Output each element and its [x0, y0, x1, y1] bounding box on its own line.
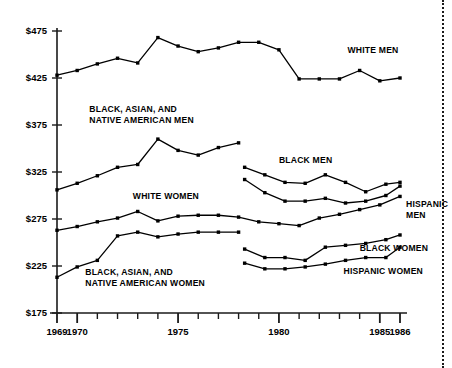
data-point [176, 232, 179, 235]
data-point [156, 219, 159, 222]
data-point [237, 230, 240, 233]
data-point [96, 62, 99, 65]
series-7: HISPANIC WOMEN [243, 246, 423, 277]
x-tick-label: 1969 [46, 326, 67, 337]
y-tick-label: $175 [26, 307, 48, 318]
series-line [245, 180, 400, 204]
series-label: HISPANICMEN [406, 199, 448, 220]
data-point [217, 146, 220, 149]
y-tick-label: $475 [26, 25, 48, 36]
data-point [116, 57, 119, 60]
data-point [344, 244, 347, 247]
series-1: BLACK, ASIAN, ANDNATIVE AMERICAN MEN [55, 104, 240, 192]
data-point [283, 256, 286, 259]
series-label: WHITE WOMEN [133, 191, 199, 201]
y-tick-label: $225 [26, 260, 48, 271]
x-tick-label: 1975 [167, 326, 189, 337]
y-tick-label: $325 [26, 166, 48, 177]
data-point [324, 197, 327, 200]
series-line [57, 139, 239, 190]
data-point [237, 41, 240, 44]
data-point [197, 230, 200, 233]
data-point [338, 213, 341, 216]
data-point [75, 225, 78, 228]
data-point [176, 44, 179, 47]
data-point [197, 214, 200, 217]
data-point [398, 233, 401, 236]
series-0: WHITE MEN [55, 36, 401, 83]
data-point [116, 234, 119, 237]
data-point [398, 184, 401, 187]
data-point [156, 137, 159, 140]
data-point [116, 166, 119, 169]
data-point [364, 256, 367, 259]
data-point [197, 153, 200, 156]
series-2: BLACK MEN [243, 155, 402, 194]
data-point [75, 182, 78, 185]
data-point [75, 69, 78, 72]
data-point [398, 181, 401, 184]
data-point [384, 183, 387, 186]
data-point [257, 220, 260, 223]
data-point [156, 36, 159, 39]
data-point [136, 210, 139, 213]
data-point [116, 216, 119, 219]
data-point [297, 77, 300, 80]
data-point [318, 216, 321, 219]
data-point [217, 46, 220, 49]
data-point [303, 182, 306, 185]
data-point [237, 215, 240, 218]
data-point [176, 149, 179, 152]
data-point [318, 77, 321, 80]
data-point [384, 238, 387, 241]
data-point [55, 73, 58, 76]
series-label: BLACK MEN [279, 155, 332, 165]
series-label: BLACK, ASIAN, ANDNATIVE AMERICAN MEN [89, 104, 194, 125]
y-tick-label: $425 [26, 72, 48, 83]
y-tick-label: $275 [26, 213, 48, 224]
data-point [277, 48, 280, 51]
series-line [245, 167, 400, 191]
data-point [197, 50, 200, 53]
data-point [378, 203, 381, 206]
data-point [283, 181, 286, 184]
data-point [75, 265, 78, 268]
data-point [136, 61, 139, 64]
data-point [398, 76, 401, 79]
series-label: WHITE MEN [348, 45, 399, 55]
data-point [303, 265, 306, 268]
series-line [57, 196, 400, 230]
data-point [263, 267, 266, 270]
data-point [398, 246, 401, 249]
data-point [263, 191, 266, 194]
x-tick-label: 1985 [369, 326, 391, 337]
data-point [217, 214, 220, 217]
data-point [303, 259, 306, 262]
series-5: BLACK, ASIAN, ANDNATIVE AMERICAN WOMEN [55, 230, 240, 288]
data-point [243, 261, 246, 264]
data-point [243, 178, 246, 181]
data-point [55, 188, 58, 191]
data-point [96, 220, 99, 223]
data-point [243, 166, 246, 169]
data-point [263, 256, 266, 259]
line-chart: $175$225$275$325$375$425$475196919701975… [0, 0, 452, 368]
x-tick-label: 1986 [389, 326, 410, 337]
data-point [344, 201, 347, 204]
data-point [324, 173, 327, 176]
data-point [263, 173, 266, 176]
data-point [136, 163, 139, 166]
data-point [277, 222, 280, 225]
y-tick-label: $375 [26, 119, 48, 130]
data-point [237, 141, 240, 144]
data-point [344, 181, 347, 184]
data-point [338, 77, 341, 80]
data-point [136, 230, 139, 233]
data-point [358, 208, 361, 211]
data-point [398, 195, 401, 198]
data-point [257, 41, 260, 44]
data-point [324, 246, 327, 249]
data-point [96, 259, 99, 262]
data-point [96, 174, 99, 177]
data-point [324, 262, 327, 265]
